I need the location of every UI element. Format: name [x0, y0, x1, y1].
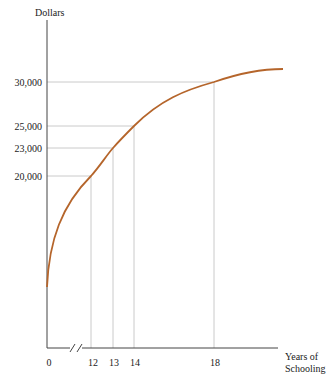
x-axis-label-line1: Years of — [285, 351, 318, 362]
x-tick-13: 13 — [104, 357, 124, 368]
earnings-curve — [47, 69, 283, 287]
axis-break-icon — [70, 344, 75, 352]
y-axis-label: Dollars — [35, 7, 64, 18]
x-tick-12: 12 — [83, 357, 103, 368]
guide-lines — [47, 82, 214, 348]
y-tick-30000: 30,000 — [0, 77, 42, 88]
y-tick-20000: 20,000 — [0, 171, 42, 182]
x-tick-18: 18 — [205, 357, 225, 368]
x-axis-label-line2: Schooling — [285, 363, 326, 374]
x-tick-0: 0 — [39, 357, 59, 368]
y-tick-23000: 23,000 — [0, 143, 42, 154]
y-tick-25000: 25,000 — [0, 121, 42, 132]
x-tick-14: 14 — [125, 357, 145, 368]
chart-canvas — [0, 0, 327, 380]
